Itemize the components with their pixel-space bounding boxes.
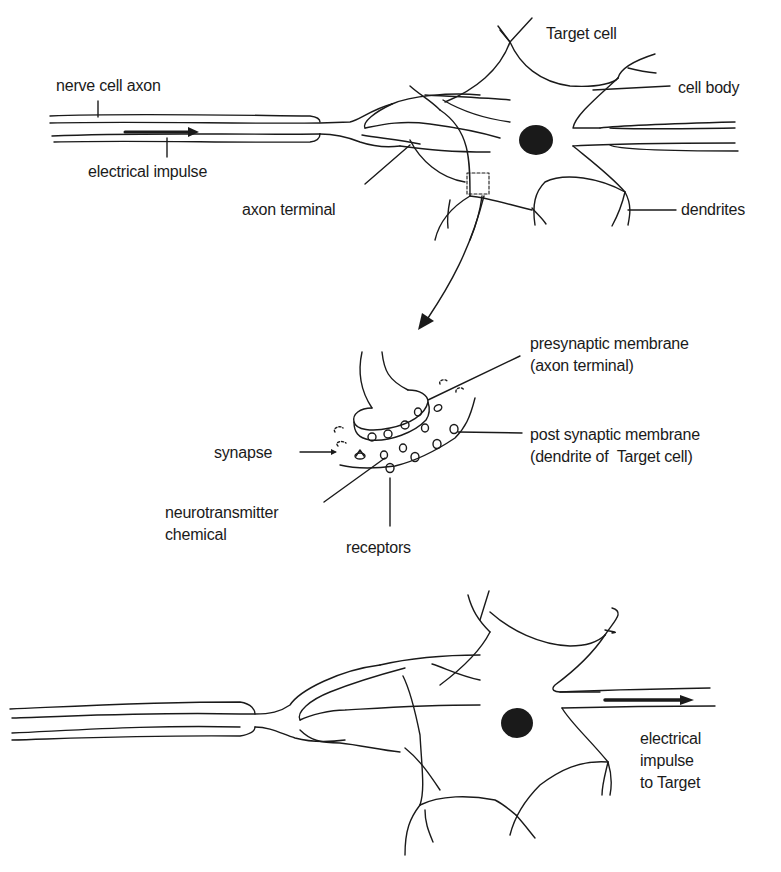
zoom-arrowhead-icon bbox=[418, 313, 434, 330]
neuron-synapse-diagram: nerve cell axon electrical impulse axon … bbox=[0, 0, 781, 872]
label-nerve-cell-axon: nerve cell axon bbox=[56, 76, 161, 96]
synapse-closeup bbox=[300, 352, 522, 526]
label-cell-body: cell body bbox=[678, 78, 739, 98]
label-dendrites: dendrites bbox=[681, 200, 745, 220]
label-impulse-to-target: electrical impulse to Target bbox=[640, 728, 701, 794]
presynaptic-callout-line bbox=[428, 356, 520, 400]
label-synapse: synapse bbox=[214, 443, 272, 463]
bottom-nucleus bbox=[501, 708, 533, 738]
label-receptors: receptors bbox=[346, 538, 411, 558]
impulse-to-target-arrow-icon bbox=[605, 695, 694, 705]
zoom-arrow-line bbox=[428, 196, 484, 318]
bottom-neuron bbox=[10, 591, 715, 855]
neurotransmitter-callout-line bbox=[324, 458, 385, 502]
label-target-cell: Target cell bbox=[546, 24, 617, 44]
top-nerve-axon bbox=[50, 94, 500, 147]
impulse-arrow-icon bbox=[125, 127, 199, 137]
axon-terminal-callout-line bbox=[365, 145, 410, 184]
label-presynaptic-membrane: presynaptic membrane (axon terminal) bbox=[530, 333, 689, 377]
label-post-synaptic-membrane: post synaptic membrane (dendrite of Targ… bbox=[530, 424, 700, 468]
label-electrical-impulse: electrical impulse bbox=[88, 162, 207, 182]
label-neurotransmitter-chemical: neurotransmitter chemical bbox=[165, 502, 278, 546]
postsynaptic-callout-line bbox=[458, 432, 522, 433]
label-axon-terminal: axon terminal bbox=[242, 200, 335, 220]
top-nucleus bbox=[519, 125, 553, 155]
cell-body-callout-line bbox=[593, 86, 670, 90]
